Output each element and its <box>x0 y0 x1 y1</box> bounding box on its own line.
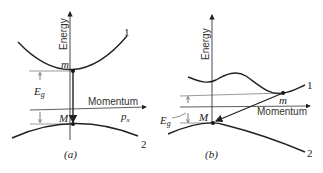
caption-a: (a) <box>64 148 77 161</box>
px-label-a: px <box>120 110 131 124</box>
band-1-b <box>188 73 305 94</box>
panel-b: Energy 1 m Momentum Eg M 2 (b) <box>159 15 313 161</box>
band-2-label-b: 2 <box>307 147 313 159</box>
panel-a: Energy 1 m Eg Momentum px M 2 (a) <box>12 12 147 161</box>
band-1-label-b: 1 <box>307 79 313 91</box>
energy-label-a: Energy <box>58 18 69 50</box>
m-label-b: m <box>279 94 287 106</box>
band-2-a <box>12 123 138 138</box>
eg-leader-b <box>172 113 186 118</box>
momentum-label-a: Momentum <box>88 96 138 107</box>
band-1-a <box>18 36 127 70</box>
m-level-line-b <box>180 93 283 96</box>
band-2-b <box>168 123 305 152</box>
m-label-a: m <box>61 58 69 70</box>
caption-b: (b) <box>205 148 218 161</box>
band-1-label-a: 1 <box>124 26 130 38</box>
momentum-axis-a <box>30 107 146 110</box>
M-label-a: M <box>58 112 69 124</box>
eg-label-a: Eg <box>33 85 45 99</box>
momentum-label-b: Momentum <box>257 106 307 117</box>
M-label-b: M <box>198 111 209 123</box>
band-diagram: Energy 1 m Eg Momentum px M 2 (a) Energy… <box>0 0 323 173</box>
energy-label-b: Energy <box>200 28 211 60</box>
eg-label-b: Eg <box>159 114 171 128</box>
band-2-label-a: 2 <box>141 138 147 150</box>
